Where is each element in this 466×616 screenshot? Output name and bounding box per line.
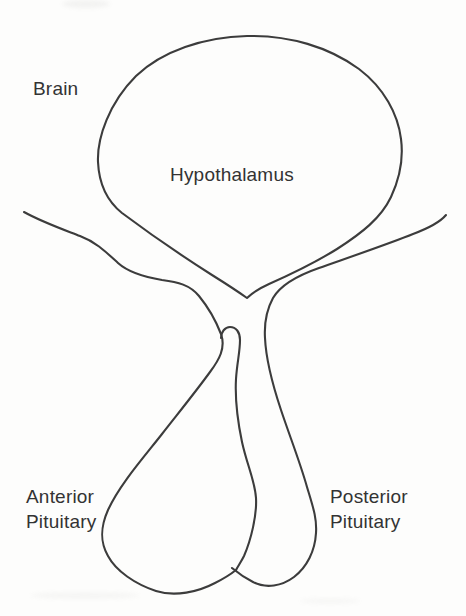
posterior-pituitary-label-line2: Pituitary bbox=[330, 509, 408, 534]
brain-label: Brain bbox=[33, 76, 78, 101]
diagram-canvas: Brain Hypothalamus Anterior Pituitary Po… bbox=[0, 0, 466, 616]
anterior-pituitary-inner-border bbox=[221, 327, 256, 570]
posterior-pituitary-label: Posterior Pituitary bbox=[330, 484, 408, 534]
hypothalamus-label: Hypothalamus bbox=[170, 162, 294, 187]
anterior-pituitary-label: Anterior Pituitary bbox=[26, 484, 96, 534]
anterior-pituitary-label-line1: Anterior bbox=[26, 484, 96, 509]
posterior-pituitary-label-line1: Posterior bbox=[330, 484, 408, 509]
anterior-pituitary-label-line2: Pituitary bbox=[26, 509, 96, 534]
